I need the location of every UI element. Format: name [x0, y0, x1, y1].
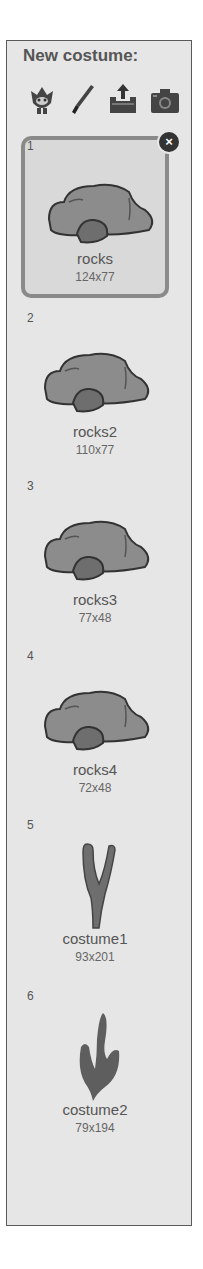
- costume-name: rocks4: [21, 761, 169, 778]
- costume-name: costume2: [21, 1101, 169, 1118]
- delete-costume-icon[interactable]: ×: [157, 130, 181, 154]
- costume-thumbnail[interactable]: [35, 671, 155, 761]
- costume-name: costume1: [21, 930, 169, 947]
- costume-number: 2: [27, 311, 34, 325]
- costume-name: rocks3: [21, 591, 169, 608]
- costume-item[interactable]: 1 rocks124x77×: [21, 136, 169, 298]
- costume-size: 79x194: [21, 1121, 169, 1135]
- costume-item[interactable]: 4 rocks472x48: [21, 647, 169, 809]
- costume-thumbnail[interactable]: [35, 501, 155, 591]
- costume-number: 4: [27, 649, 34, 663]
- costume-size: 77x48: [21, 611, 169, 625]
- costume-size: 124x77: [25, 270, 165, 284]
- paint-new-costume-button[interactable]: [67, 83, 97, 115]
- costume-item[interactable]: 2 rocks2110x77: [21, 309, 169, 471]
- paintbrush-icon: [67, 83, 97, 115]
- new-costume-panel: New costume:: [6, 40, 192, 1226]
- costume-thumbnail[interactable]: [35, 840, 155, 930]
- costume-number: 1: [27, 139, 34, 153]
- costume-number: 5: [27, 818, 34, 832]
- costume-size: 72x48: [21, 781, 169, 795]
- choose-from-library-button[interactable]: [27, 83, 57, 115]
- new-costume-toolbar: [27, 83, 187, 117]
- costume-item[interactable]: 6 costume279x194: [21, 987, 169, 1149]
- sprite-library-icon: [27, 83, 57, 115]
- new-costume-heading: New costume:: [23, 46, 138, 66]
- costume-item[interactable]: 5 costume193x201: [21, 816, 169, 978]
- upload-costume-button[interactable]: [107, 83, 137, 115]
- costume-number: 6: [27, 989, 34, 1003]
- camera-icon: [149, 83, 181, 115]
- costume-name: rocks2: [21, 423, 169, 440]
- camera-costume-button[interactable]: [149, 83, 179, 115]
- costume-item[interactable]: 3 rocks377x48: [21, 477, 169, 639]
- upload-icon: [107, 83, 139, 115]
- costume-thumbnail[interactable]: [39, 164, 159, 254]
- costume-thumbnail[interactable]: [35, 1011, 155, 1101]
- costume-name: rocks: [25, 250, 165, 267]
- costume-size: 93x201: [21, 950, 169, 964]
- costume-size: 110x77: [21, 443, 169, 457]
- costume-thumbnail[interactable]: [35, 333, 155, 423]
- costume-number: 3: [27, 479, 34, 493]
